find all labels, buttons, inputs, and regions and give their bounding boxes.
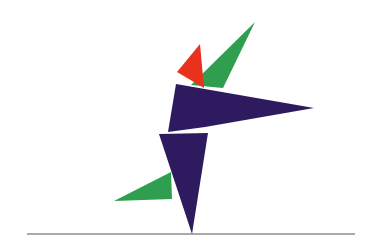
geometric-artwork [0,0,373,251]
